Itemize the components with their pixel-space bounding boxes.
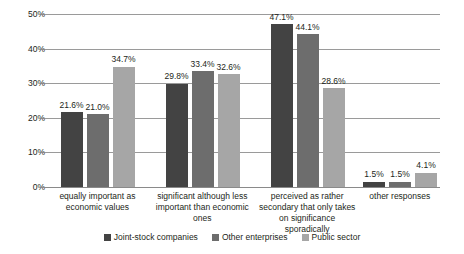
legend-swatch-icon — [212, 234, 219, 241]
bar-value-label: 47.1% — [269, 13, 293, 22]
legend-label: Public sector — [312, 232, 361, 242]
legend-swatch-icon — [302, 234, 309, 241]
bar-wrap-3-1: 1.5% — [389, 14, 411, 187]
chart-legend: Joint-stock companies Other enterprises … — [0, 232, 464, 242]
bar-group-1: 29.8% 33.4% 32.6% — [150, 14, 255, 187]
legend-swatch-icon — [104, 234, 111, 241]
bar-value-label: 28.6% — [321, 77, 345, 86]
bar-public-sector[interactable] — [218, 74, 240, 187]
bar-wrap-0-2: 34.7% — [113, 14, 135, 187]
bar-joint-stock-companies[interactable] — [363, 182, 385, 187]
bar-joint-stock-companies[interactable] — [166, 84, 188, 187]
legend-item-other-enterprises[interactable]: Other enterprises — [212, 232, 288, 242]
bar-value-label: 21.6% — [59, 101, 83, 110]
bar-wrap-2-0: 47.1% — [271, 14, 293, 187]
bar-group-3: 1.5% 1.5% 4.1% — [360, 14, 440, 187]
bar-other-enterprises[interactable] — [389, 182, 411, 187]
x-axis-category-labels: equally important as economic values sig… — [45, 191, 440, 235]
x-category-label-0: equally important as economic values — [45, 191, 150, 235]
bar-wrap-1-2: 32.6% — [218, 14, 240, 187]
bar-wrap-0-0: 21.6% — [61, 14, 83, 187]
legend-label: Joint-stock companies — [114, 232, 198, 242]
bar-value-label: 33.4% — [190, 60, 214, 69]
bar-public-sector[interactable] — [323, 88, 345, 187]
bar-other-enterprises[interactable] — [87, 114, 109, 187]
bar-wrap-2-1: 44.1% — [297, 14, 319, 187]
bar-other-enterprises[interactable] — [192, 71, 214, 187]
bar-wrap-1-1: 33.4% — [192, 14, 214, 187]
bar-joint-stock-companies[interactable] — [61, 112, 83, 187]
bar-value-label: 44.1% — [295, 23, 319, 32]
bar-public-sector[interactable] — [415, 173, 437, 187]
x-category-label-2: perceived as rather secondary that only … — [255, 191, 360, 235]
bar-wrap-1-0: 29.8% — [166, 14, 188, 187]
bar-value-label: 29.8% — [164, 72, 188, 81]
bar-value-label: 21.0% — [85, 103, 109, 112]
bar-value-label: 1.5% — [364, 170, 383, 179]
bar-value-label: 34.7% — [111, 55, 135, 64]
bar-group-0: 21.6% 21.0% 34.7% — [45, 14, 150, 187]
bar-value-label: 32.6% — [216, 63, 240, 72]
y-axis: 50% 40% 30% 20% 10% 0% — [0, 14, 45, 187]
x-category-label-1: significant although less important than… — [150, 191, 255, 235]
legend-item-joint-stock-companies[interactable]: Joint-stock companies — [104, 232, 198, 242]
bar-public-sector[interactable] — [113, 67, 135, 187]
gridline-0 — [45, 187, 440, 188]
bar-wrap-2-2: 28.6% — [323, 14, 345, 187]
bar-wrap-0-1: 21.0% — [87, 14, 109, 187]
bar-group-2: 47.1% 44.1% 28.6% — [255, 14, 360, 187]
x-category-label-3: other responses — [360, 191, 440, 235]
legend-item-public-sector[interactable]: Public sector — [302, 232, 361, 242]
bar-value-label: 1.5% — [390, 170, 409, 179]
bar-other-enterprises[interactable] — [297, 34, 319, 187]
bar-wrap-3-2: 4.1% — [415, 14, 437, 187]
bar-groups: 21.6% 21.0% 34.7% 29.8% 33.4% 32.6 — [45, 14, 440, 187]
bar-chart: 50% 40% 30% 20% 10% 0% 21.6% 21.0% — [0, 0, 464, 254]
bar-wrap-3-0: 1.5% — [363, 14, 385, 187]
legend-label: Other enterprises — [222, 232, 288, 242]
bar-value-label: 4.1% — [416, 161, 435, 170]
bar-joint-stock-companies[interactable] — [271, 24, 293, 187]
